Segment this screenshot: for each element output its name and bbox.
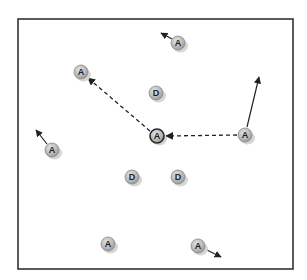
node-label: D <box>175 172 182 182</box>
node-label: A <box>105 239 112 249</box>
node-label: A <box>78 67 85 77</box>
node-label: D <box>129 172 136 182</box>
diagram-canvas: AADAAADDAA <box>0 0 307 280</box>
node-label: A <box>49 145 56 155</box>
node-label: D <box>153 88 160 98</box>
node-label: A <box>195 241 202 251</box>
node-label: A <box>242 130 249 140</box>
node-label: A <box>154 131 161 141</box>
node-label: A <box>175 38 182 48</box>
